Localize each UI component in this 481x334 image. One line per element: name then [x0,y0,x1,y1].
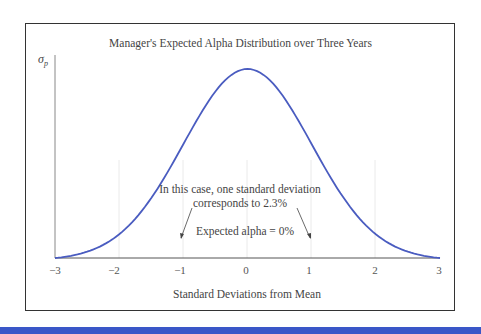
annotation-line-2: corresponds to 2.3% [140,196,340,210]
annotation-expected-alpha: Expected alpha = 0% [190,224,300,238]
x-tick-label: 3 [436,264,442,276]
x-tick-label: −1 [174,264,186,276]
annotation-sd: In this case, one standard deviation cor… [140,182,340,210]
x-tick-label: 1 [306,264,312,276]
annotation-line-1: In this case, one standard deviation [140,182,340,196]
x-axis-label: Standard Deviations from Mean [0,288,481,300]
x-tick-label: −2 [108,264,120,276]
plot-area [0,0,481,334]
x-tick-label: 2 [372,264,378,276]
x-tick-label: −3 [49,264,61,276]
footer-bar [0,327,481,334]
x-tick-label: 0 [243,264,249,276]
arrow-right-head [307,233,311,239]
